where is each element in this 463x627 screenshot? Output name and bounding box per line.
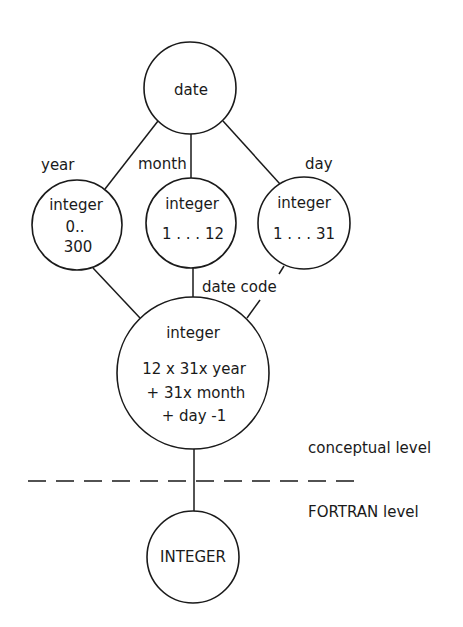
node-date-label: date: [174, 81, 208, 99]
node-code-type: integer: [166, 324, 221, 342]
node-month-type: integer: [165, 195, 220, 213]
node-day-type: integer: [277, 194, 332, 212]
node-fortran-integer: INTEGER: [147, 511, 239, 603]
node-day: integer 1 . . . 31: [258, 177, 350, 269]
level-label-fortran: FORTRAN level: [308, 503, 419, 521]
node-year: integer 0.. 300: [32, 180, 122, 270]
date-representation-diagram: date year month day date code integer 0.…: [0, 0, 463, 627]
node-code-formula-line2: + 31x month: [147, 384, 246, 402]
edge-label-year: year: [41, 156, 75, 174]
edge-day-code-lower: [247, 300, 260, 318]
node-code-formula-line3: + day -1: [162, 407, 227, 425]
node-day-range: 1 . . . 31: [273, 225, 335, 243]
edge-year-code: [93, 268, 140, 318]
edge-label-month: month: [138, 155, 187, 173]
node-month: integer 1 . . . 12: [146, 178, 236, 268]
node-date: date: [144, 42, 236, 134]
level-label-conceptual: conceptual level: [308, 439, 431, 457]
node-date-code: integer 12 x 31x year + 31x month + day …: [117, 297, 269, 449]
node-code-formula-line1: 12 x 31x year: [142, 360, 247, 378]
node-month-range: 1 . . . 12: [162, 225, 224, 243]
node-fortran-label: INTEGER: [160, 548, 226, 566]
node-year-type: integer: [49, 196, 104, 214]
edge-label-date-code: date code: [202, 278, 277, 296]
edge-date-day: [223, 121, 280, 184]
edge-label-day: day: [305, 155, 333, 173]
node-year-range-end: 300: [64, 238, 93, 256]
edge-day-code-upper: [279, 266, 284, 274]
node-year-range-start: 0..: [65, 218, 84, 236]
